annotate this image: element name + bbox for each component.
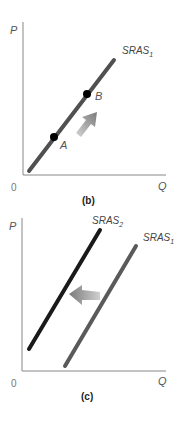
sras2-label: SRAS2 [92, 215, 123, 228]
panel-b: P Q 0 SRAS1 A B (b) [10, 22, 167, 206]
y-axis-label: P [9, 220, 17, 232]
sras1-curve [29, 60, 114, 171]
diagram-canvas: P Q 0 SRAS1 A B (b) P Q 0 SRAS2 SRAS1 [0, 0, 178, 423]
panel-b-caption: (b) [82, 195, 95, 206]
point-b-label: B [95, 90, 102, 102]
point-a [50, 133, 58, 141]
panel-c-caption: (c) [81, 391, 93, 402]
point-a-label: A [59, 139, 67, 151]
x-axis-label: Q [158, 180, 167, 192]
point-b [83, 90, 91, 98]
origin-label: 0 [11, 378, 17, 389]
x-axis-label: Q [158, 375, 167, 387]
sras1-label: SRAS1 [122, 45, 153, 58]
sras1-curve [65, 246, 136, 366]
arrow-left-icon [69, 285, 100, 305]
sras2-curve [29, 230, 100, 349]
y-axis-label: P [10, 24, 18, 36]
sras1-label: SRAS1 [143, 232, 174, 245]
arrow-up-right-icon [76, 112, 97, 137]
panel-c: P Q 0 SRAS2 SRAS1 (c) [9, 215, 174, 402]
origin-label: 0 [11, 182, 17, 193]
